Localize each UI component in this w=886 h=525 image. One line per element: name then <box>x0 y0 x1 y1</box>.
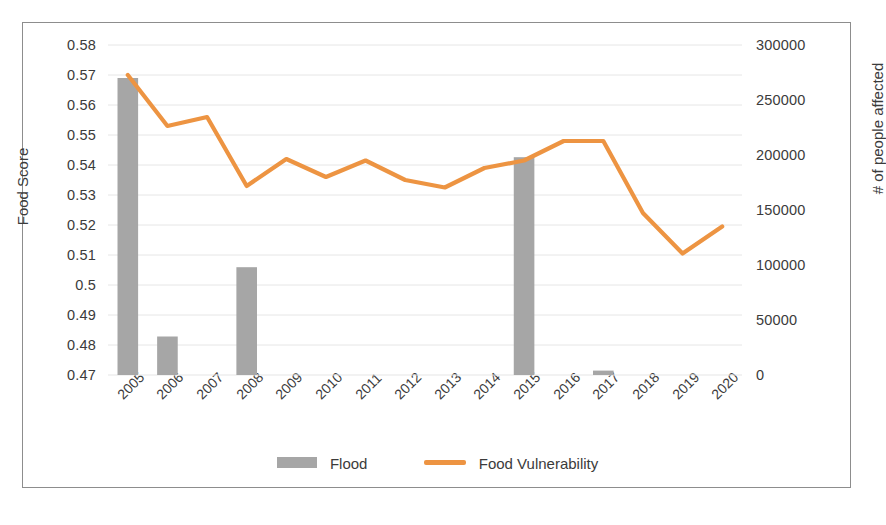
gridlines <box>108 45 742 375</box>
line-series-food-vulnerability <box>128 75 722 254</box>
bar-2008 <box>236 267 257 375</box>
legend-label-flood: Flood <box>330 454 368 471</box>
legend-line-swatch-icon <box>424 460 466 465</box>
bar-2015 <box>514 157 535 375</box>
legend-item-flood[interactable]: Flood <box>277 453 368 472</box>
legend-label-food-vulnerability: Food Vulnerability <box>479 454 599 471</box>
legend-bar-swatch-icon <box>277 457 317 468</box>
chart-legend: Flood Food Vulnerability <box>0 452 875 471</box>
legend-item-food-vulnerability[interactable]: Food Vulnerability <box>424 453 599 472</box>
bar-2017 <box>593 371 614 375</box>
bar-2005 <box>118 78 139 375</box>
bar-2006 <box>157 337 178 376</box>
